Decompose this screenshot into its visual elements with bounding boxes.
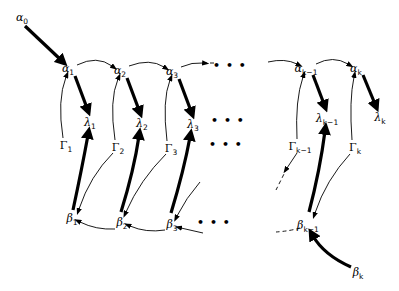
edge-alpha3-to-dots: [181, 63, 203, 67]
edge-gamma3-to-beta2: [126, 154, 166, 212]
node-symbol: β: [352, 266, 359, 279]
node-subscript: k: [381, 117, 386, 126]
ellipsis-layer: • • •• • •• • •• • •: [197, 59, 247, 229]
node-subscript: k−1: [303, 225, 319, 234]
edge-gammak1-to-dots: [276, 168, 287, 190]
node-lambda2: λ2: [135, 117, 148, 132]
edge-gammak1-to-alphak1: [297, 77, 303, 139]
node-gamma1: Γ1: [60, 139, 73, 154]
edge-betak1-to-lambdak1: [309, 131, 325, 212]
node-subscript: 1: [69, 68, 74, 77]
edge-gammak1-to-dots: [287, 153, 297, 168]
edge-alphak-to-lambdak: [363, 75, 375, 104]
node-alphak1: αk−1: [295, 62, 318, 77]
node-alphak: αk: [350, 62, 362, 77]
node-symbol: β: [296, 219, 303, 232]
node-beta2: β2: [115, 216, 127, 231]
node-symbol: β: [65, 212, 72, 225]
node-subscript: k: [359, 272, 364, 281]
edge-alpha2-to-alpha3: [129, 62, 164, 67]
node-subscript: 1: [67, 145, 72, 154]
dots-alpha-row: • • •: [213, 59, 247, 72]
node-subscript: 3: [173, 71, 178, 80]
node-alpha1: α1: [62, 62, 74, 77]
diagram-canvas: α0α1α2α3αk−1αkλ1λ2λ3λk−1λkΓ1Γ2Γ3Γk−1Γkβ1…: [0, 0, 399, 291]
edge-beta3-to-beta2: [130, 226, 165, 231]
node-beta1: β1: [65, 212, 77, 227]
node-alpha2: α2: [114, 64, 126, 79]
node-subscript: 2: [119, 147, 124, 156]
node-symbol: λ: [135, 117, 143, 130]
edge-gamma4-to-beta3: [177, 182, 200, 216]
node-symbol: β: [165, 218, 172, 231]
node-alpha0: α0: [16, 11, 28, 26]
node-subscript: k−1: [302, 68, 318, 77]
node-betak1: βk−1: [296, 219, 319, 234]
node-gamma2: Γ2: [112, 141, 125, 156]
node-lambda1: λ1: [83, 116, 96, 131]
edge-gamma2-to-alpha2: [113, 79, 118, 140]
node-lambdak1: λk−1: [315, 112, 339, 127]
node-subscript: k−1: [323, 118, 339, 127]
node-subscript: 3: [173, 224, 178, 233]
node-symbol: λ: [315, 112, 323, 125]
node-gammak1: Γk−1: [288, 140, 311, 155]
node-lambda3: λ3: [186, 118, 199, 133]
node-subscript: 2: [123, 222, 128, 231]
dots-beta-row: • • •: [197, 216, 231, 229]
dots-lambda-row: • • •: [211, 114, 245, 127]
node-symbol: β: [115, 216, 122, 229]
node-subscript: 2: [143, 123, 148, 132]
node-subscript: 3: [194, 124, 199, 133]
nodes-layer: α0α1α2α3αk−1αkλ1λ2λ3λk−1λkΓ1Γ2Γ3Γk−1Γkβ1…: [16, 11, 386, 281]
node-subscript: k: [358, 68, 363, 77]
edge-alpha2-to-lambda2: [127, 78, 139, 110]
edge-gammak-to-alphak: [351, 77, 354, 140]
node-symbol: λ: [83, 116, 91, 129]
edge-alpha1-to-lambda1: [75, 76, 87, 108]
node-subscript: k: [357, 147, 362, 156]
edge-alpha1-to-alpha2: [77, 60, 112, 66]
node-subscript: 1: [73, 218, 78, 227]
node-betak: βk: [352, 266, 364, 281]
edge-alpha3-to-lambda3: [179, 79, 191, 111]
edge-gamma1-to-alpha1: [61, 77, 66, 138]
node-beta3: β3: [165, 218, 177, 233]
node-symbol: λ: [373, 111, 381, 124]
node-subscript: 1: [91, 122, 96, 131]
chain-diagram: α0α1α2α3αk−1αkλ1λ2λ3λk−1λkΓ1Γ2Γ3Γk−1Γkβ1…: [0, 0, 399, 291]
node-gamma3: Γ3: [165, 142, 178, 157]
node-alpha3: α3: [166, 65, 178, 80]
edges-layer: [25, 26, 375, 267]
edge-alphak1-to-lambdak1: [313, 75, 324, 104]
node-subscript: 0: [23, 17, 28, 26]
node-subscript: 3: [172, 148, 177, 157]
edge-alpha0-to-alpha1: [25, 26, 61, 60]
edge-beta2-to-beta1: [80, 222, 115, 229]
edge-gamma3-to-alpha3: [165, 80, 170, 141]
node-gammak: Γk: [349, 141, 362, 156]
edge-dots-to-alphak1: [268, 60, 297, 64]
node-subscript: 2: [121, 70, 126, 79]
edge-betak-to-betak1: [313, 236, 351, 267]
dots-gamma-row: • • •: [209, 138, 243, 151]
node-subscript: k−1: [296, 146, 312, 155]
node-lambdak: λk: [373, 111, 386, 126]
edge-beta1-to-lambda1: [73, 135, 88, 210]
node-symbol: λ: [186, 118, 194, 131]
edge-alphak1-to-alphak: [316, 60, 348, 65]
